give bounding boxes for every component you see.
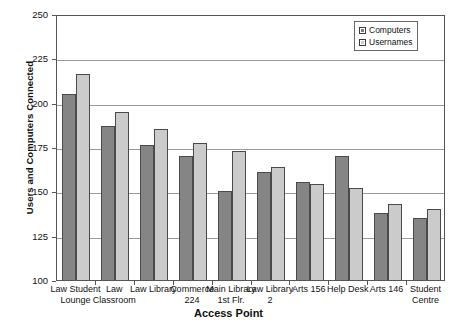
chart-legend: Computers Usernames [354, 21, 418, 51]
bar-group [335, 14, 363, 280]
bar-group [413, 14, 441, 280]
bar-group [101, 14, 129, 280]
bar-computers [413, 218, 427, 280]
legend-item-computers: Computers [359, 25, 412, 35]
bar-computers [335, 156, 349, 280]
bar-usernames [76, 74, 90, 280]
bar-computers [296, 182, 310, 280]
bar-usernames [310, 184, 324, 280]
x-axis-title: Access Point [0, 307, 457, 319]
bar-group [140, 14, 168, 280]
x-axis-tick-label-line: Classroom [88, 295, 141, 306]
bar-usernames [193, 143, 207, 280]
bar-computers [218, 191, 232, 280]
bar-computers [140, 145, 154, 280]
x-axis-tick-label-line: Student [399, 284, 452, 295]
bar-usernames [349, 188, 363, 280]
bars-layer [57, 16, 444, 280]
y-axis-tickmark [52, 281, 56, 282]
legend-label-computers: Computers [369, 25, 411, 35]
bar-group [257, 14, 285, 280]
bar-chart: Users and Computers Connected 2502252001… [0, 0, 457, 331]
x-axis-tick-label-line: 2 [244, 295, 297, 306]
bar-usernames [388, 204, 402, 280]
bar-usernames [115, 112, 129, 280]
legend-swatch-usernames [359, 39, 366, 46]
bar-computers [62, 94, 76, 280]
legend-item-usernames: Usernames [359, 37, 412, 47]
bar-computers [101, 126, 115, 280]
bar-usernames [232, 151, 246, 280]
bar-usernames [271, 167, 285, 280]
bar-group [179, 14, 207, 280]
bar-group [296, 14, 324, 280]
legend-swatch-computers [359, 27, 366, 34]
x-axis-tick-label: StudentCentre [399, 284, 452, 306]
bar-computers [374, 213, 388, 280]
plot-area [56, 15, 445, 281]
bar-group [374, 14, 402, 280]
bar-computers [257, 172, 271, 280]
bar-computers [179, 156, 193, 280]
bar-group [218, 14, 246, 280]
bar-group [62, 14, 90, 280]
bar-usernames [154, 129, 168, 280]
bar-usernames [427, 209, 441, 280]
legend-label-usernames: Usernames [369, 37, 412, 47]
x-axis-tick-label-line: Centre [399, 295, 452, 306]
